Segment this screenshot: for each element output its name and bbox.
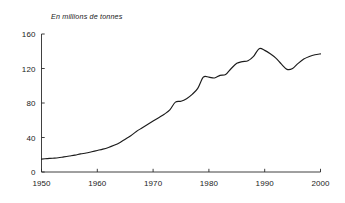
x-tick-label: 2000 [311,179,330,188]
x-tick-label: 1960 [88,179,107,188]
y-tick-label: 160 [22,30,36,39]
y-tick-label: 120 [22,65,36,74]
x-tick-label: 1950 [32,179,51,188]
x-tick-label: 1990 [256,179,275,188]
y-tick-label: 80 [26,99,36,108]
line-chart: En millions de tonnes 04080120160 195019… [0,0,345,203]
y-tick-label: 0 [31,168,36,177]
y-tick-label: 40 [26,134,36,143]
chart-background [0,0,345,203]
x-tick-label: 1980 [200,179,219,188]
x-tick-label: 1970 [144,179,163,188]
y-axis-title: En millions de tonnes [51,12,123,21]
